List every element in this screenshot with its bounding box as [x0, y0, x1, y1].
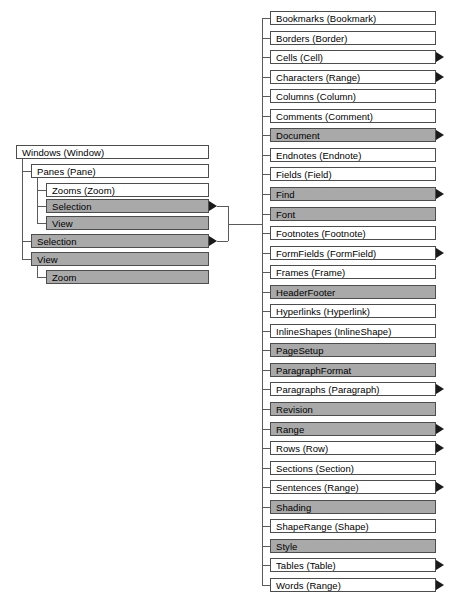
expand-arrow-icon	[436, 130, 444, 140]
expand-arrow-icon	[209, 201, 217, 211]
tree-node-selection[interactable]: Selection	[31, 234, 209, 248]
expand-arrow-icon	[209, 236, 217, 246]
object-node-headerfooter-label: HeaderFooter	[276, 286, 335, 299]
object-node-hyperlinks-hyperlink-[interactable]: Hyperlinks (Hyperlink)	[270, 304, 436, 318]
object-node-rows-row--label: Rows (Row)	[276, 442, 328, 455]
expand-arrow-icon	[436, 424, 444, 434]
object-node-style-label: Style	[276, 540, 297, 553]
connector-line	[22, 159, 23, 259]
connector-line	[262, 448, 270, 449]
connector-line	[262, 565, 270, 566]
object-node-revision[interactable]: Revision	[270, 402, 436, 416]
object-node-rows-row-[interactable]: Rows (Row)	[270, 441, 436, 455]
tree-node-zooms-zoom-[interactable]: Zooms (Zoom)	[46, 183, 209, 197]
expand-arrow-icon	[436, 52, 444, 62]
object-node-pagesetup[interactable]: PageSetup	[270, 343, 436, 357]
connector-line	[262, 57, 270, 58]
object-node-footnotes-footnote--label: Footnotes (Footnote)	[276, 227, 366, 240]
tree-node-windows[interactable]: Windows (Window)	[16, 145, 209, 159]
object-node-footnotes-footnote-[interactable]: Footnotes (Footnote)	[270, 226, 436, 240]
object-node-characters-range-[interactable]: Characters (Range)	[270, 70, 436, 84]
object-node-tables-table-[interactable]: Tables (Table)	[270, 558, 436, 572]
tree-node-view-label: View	[52, 217, 73, 230]
object-node-paragraphs-paragraph--label: Paragraphs (Paragraph)	[276, 383, 380, 396]
object-node-shading[interactable]: Shading	[270, 500, 436, 514]
object-node-sentences-range-[interactable]: Sentences (Range)	[270, 480, 436, 494]
tree-node-zooms-zoom--label: Zooms (Zoom)	[52, 184, 115, 197]
connector-line	[262, 214, 270, 215]
connector-line	[37, 266, 38, 277]
connector-line	[262, 350, 270, 351]
connector-line	[262, 370, 270, 371]
object-node-style[interactable]: Style	[270, 539, 436, 553]
object-node-paragraphs-paragraph-[interactable]: Paragraphs (Paragraph)	[270, 382, 436, 396]
connector-line	[262, 18, 263, 585]
object-node-shaperange-shape-[interactable]: ShapeRange (Shape)	[270, 519, 436, 533]
tree-node-selection-label: Selection	[37, 235, 77, 248]
connector-line	[217, 241, 228, 242]
tree-node-windows-label: Windows (Window)	[22, 146, 104, 159]
object-node-inlineshapes-inlineshape-[interactable]: InlineShapes (InlineShape)	[270, 324, 436, 338]
object-node-fields-field-[interactable]: Fields (Field)	[270, 167, 436, 181]
object-node-comments-comment-[interactable]: Comments (Comment)	[270, 109, 436, 123]
tree-node-zoom-label: Zoom	[52, 271, 76, 284]
connector-line	[262, 409, 270, 410]
connector-line	[262, 292, 270, 293]
object-node-endnotes-endnote-[interactable]: Endnotes (Endnote)	[270, 148, 436, 162]
object-node-formfields-formfield-[interactable]: FormFields (FormField)	[270, 246, 436, 260]
connector-line	[262, 526, 270, 527]
connector-line	[262, 311, 270, 312]
tree-node-zoom[interactable]: Zoom	[46, 270, 209, 284]
connector-line	[262, 96, 270, 97]
object-node-headerfooter[interactable]: HeaderFooter	[270, 285, 436, 299]
object-node-borders-border-[interactable]: Borders (Border)	[270, 31, 436, 45]
object-node-find[interactable]: Find	[270, 187, 436, 201]
object-node-range[interactable]: Range	[270, 422, 436, 436]
object-node-words-range-[interactable]: Words (Range)	[270, 578, 436, 592]
expand-arrow-icon	[436, 248, 444, 258]
tree-node-selection[interactable]: Selection	[46, 199, 209, 213]
expand-arrow-icon	[436, 189, 444, 199]
expand-arrow-icon	[436, 482, 444, 492]
connector-line	[262, 429, 270, 430]
object-node-columns-column--label: Columns (Column)	[276, 90, 356, 103]
object-node-frames-frame-[interactable]: Frames (Frame)	[270, 265, 436, 279]
tree-node-view[interactable]: View	[46, 216, 209, 230]
object-node-paragraphformat[interactable]: ParagraphFormat	[270, 363, 436, 377]
tree-node-selection-label: Selection	[52, 200, 92, 213]
object-node-font[interactable]: Font	[270, 207, 436, 221]
object-node-pagesetup-label: PageSetup	[276, 344, 323, 357]
connector-line	[217, 206, 228, 207]
object-node-bookmarks-bookmark-[interactable]: Bookmarks (Bookmark)	[270, 11, 436, 25]
connector-line	[262, 135, 270, 136]
expand-arrow-icon	[436, 72, 444, 82]
connector-line	[262, 116, 270, 117]
connector-line	[262, 194, 270, 195]
connector-line	[262, 174, 270, 175]
object-node-document[interactable]: Document	[270, 128, 436, 142]
object-node-revision-label: Revision	[276, 403, 313, 416]
tree-node-view-label: View	[37, 253, 58, 266]
connector-line	[262, 272, 270, 273]
object-node-cells-cell-[interactable]: Cells (Cell)	[270, 50, 436, 64]
tree-node-panes-pane--label: Panes (Pane)	[37, 165, 96, 178]
object-node-frames-frame--label: Frames (Frame)	[276, 266, 345, 279]
object-node-fields-field--label: Fields (Field)	[276, 168, 332, 181]
object-node-comments-comment--label: Comments (Comment)	[276, 110, 373, 123]
connector-line	[262, 507, 270, 508]
tree-node-view[interactable]: View	[31, 252, 209, 266]
connector-line	[262, 77, 270, 78]
connector-line	[22, 259, 31, 260]
object-node-columns-column-[interactable]: Columns (Column)	[270, 89, 436, 103]
object-node-paragraphformat-label: ParagraphFormat	[276, 364, 351, 377]
object-node-font-label: Font	[276, 208, 295, 221]
object-node-shaperange-shape--label: ShapeRange (Shape)	[276, 520, 369, 533]
connector-line	[262, 585, 270, 586]
object-node-tables-table--label: Tables (Table)	[276, 559, 336, 572]
connector-line	[262, 18, 270, 19]
tree-node-panes-pane-[interactable]: Panes (Pane)	[31, 164, 209, 178]
object-node-borders-border--label: Borders (Border)	[276, 32, 348, 45]
object-node-sentences-range--label: Sentences (Range)	[276, 481, 359, 494]
object-node-sections-section-[interactable]: Sections (Section)	[270, 461, 436, 475]
connector-line	[262, 487, 270, 488]
